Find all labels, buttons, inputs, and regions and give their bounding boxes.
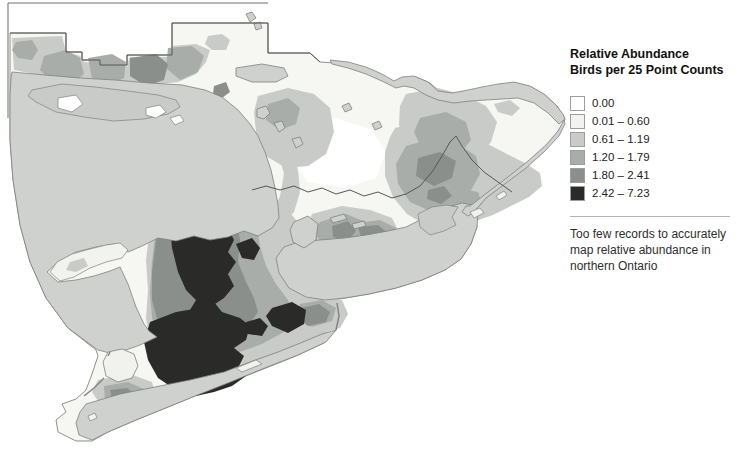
legend: Relative Abundance Birds per 25 Point Co…: [570, 46, 737, 274]
class-label: 1.20 – 1.79: [592, 151, 650, 163]
legend-title-line2: Birds per 25 Point Counts: [570, 62, 737, 78]
legend-note: Too few records to accurately map relati…: [570, 227, 736, 274]
class-swatch: [570, 186, 585, 201]
legend-row: 1.80 – 2.41: [570, 166, 737, 184]
class-label: 0.61 – 1.19: [592, 133, 650, 145]
class-label: 0.00: [592, 97, 614, 109]
class-swatch: [570, 96, 585, 111]
class-swatch: [570, 132, 585, 147]
class-swatch: [570, 114, 585, 129]
class-label: 2.42 – 7.23: [592, 187, 650, 199]
legend-row: 1.20 – 1.79: [570, 148, 737, 166]
legend-row: 0.01 – 0.60: [570, 112, 737, 130]
legend-row: 2.42 – 7.23: [570, 184, 737, 202]
figure-abundance-map: Relative Abundance Birds per 25 Point Co…: [0, 0, 737, 451]
class-label: 1.80 – 2.41: [592, 169, 650, 181]
class-swatch: [570, 150, 585, 165]
class-label: 0.01 – 0.60: [592, 115, 650, 127]
legend-rows: 0.00 0.01 – 0.60 0.61 – 1.19 1.20 – 1.79…: [570, 94, 737, 202]
legend-divider: [570, 216, 730, 217]
class-swatch: [570, 168, 585, 183]
legend-row: 0.00: [570, 94, 737, 112]
temagami-lake-1: [246, 12, 256, 22]
legend-row: 0.61 – 1.19: [570, 130, 737, 148]
legend-title: Relative Abundance Birds per 25 Point Co…: [570, 46, 737, 78]
legend-title-line1: Relative Abundance: [570, 46, 737, 62]
